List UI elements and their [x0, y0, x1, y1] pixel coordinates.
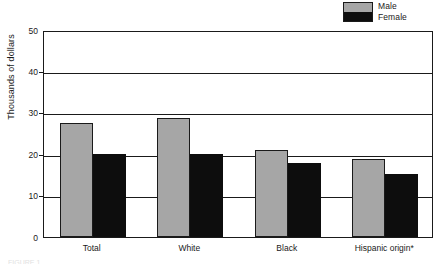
y-tick-label-0: 0	[14, 234, 38, 243]
y-tick-label-40: 40	[14, 68, 38, 77]
y-tick-label-30: 30	[14, 109, 38, 118]
bar-female-hispanic-origin	[385, 174, 418, 237]
legend-label-female: Female	[378, 12, 440, 23]
chart-figure: Male Female 01020304050 Thousands of dol…	[0, 0, 442, 266]
legend-swatch-group	[343, 2, 373, 22]
y-axis-title: Thousands of dollars	[6, 7, 16, 147]
x-tick-label-hispanic-origin: Hispanic origin*	[324, 243, 442, 253]
chart-legend: Male Female	[343, 1, 439, 23]
plot-inner	[44, 32, 432, 237]
plot-area	[43, 31, 433, 238]
bar-male-hispanic-origin	[352, 159, 385, 237]
y-tick-label-50: 50	[14, 27, 38, 36]
bottom-cutoff-artifact: FIGURE 1	[8, 259, 66, 264]
legend-label-group: Male Female	[378, 1, 440, 23]
bar-male-white	[157, 118, 190, 237]
gridline-30	[44, 114, 432, 115]
bar-male-total	[60, 123, 93, 237]
bar-male-black	[255, 150, 288, 237]
bar-female-black	[288, 163, 321, 237]
y-tick-label-20: 20	[14, 151, 38, 160]
legend-swatch-male	[344, 3, 372, 12]
gridline-40	[44, 73, 432, 74]
bar-female-white	[190, 154, 223, 237]
legend-swatch-female	[344, 12, 372, 21]
bar-female-total	[93, 154, 126, 237]
legend-label-male: Male	[378, 1, 440, 12]
y-tick-label-10: 10	[14, 192, 38, 201]
